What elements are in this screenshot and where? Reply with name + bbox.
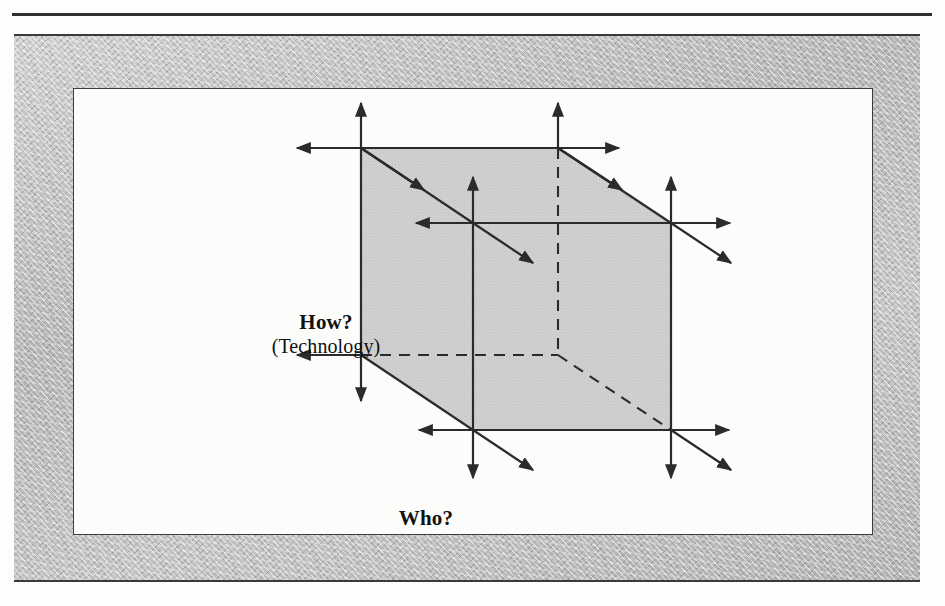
header-rule (12, 13, 932, 16)
axis-dimension-how: (Technology) (226, 335, 426, 357)
axis-question-how: How? (226, 311, 426, 335)
arrowset-back-bottom-left (297, 355, 361, 401)
page-canvas: How? (Technology) Who? (Customers) What?… (0, 0, 945, 606)
axis-label-how: How? (Technology) (226, 311, 426, 357)
arrowset-front-bottom-left (419, 430, 533, 478)
figure-panel: How? (Technology) Who? (Customers) What?… (73, 88, 873, 535)
axis-question-who: Who? (326, 507, 526, 531)
axis-label-who: Who? (Customers) (326, 507, 526, 535)
arrowset-front-top-right (671, 177, 731, 263)
arrowset-front-bottom-right (671, 430, 731, 478)
page-header-remnant (340, 0, 600, 1)
axis-dimension-who: (Customers) (326, 531, 526, 535)
cube-diagram (74, 89, 873, 535)
figure-frame: How? (Technology) Who? (Customers) What?… (14, 34, 920, 582)
cube-shaded-body (361, 148, 671, 430)
